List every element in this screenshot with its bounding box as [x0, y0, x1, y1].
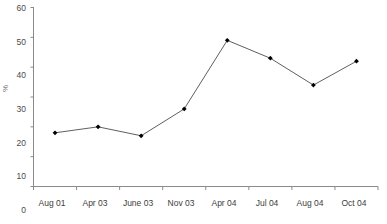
- data-point: [53, 130, 58, 135]
- data-point: [311, 83, 316, 88]
- series-line: [55, 40, 356, 135]
- data-point: [225, 38, 230, 43]
- series-markers: [53, 38, 359, 138]
- line-chart: % 60 50 40 30 20 10 0 Aug 01 Apr 03 June…: [0, 0, 387, 224]
- data-point: [354, 59, 359, 64]
- data-point: [182, 107, 187, 112]
- data-point: [96, 124, 101, 129]
- x-tick-marks: [34, 187, 379, 191]
- plot-area: [0, 0, 387, 224]
- data-point: [139, 133, 144, 138]
- data-point: [268, 56, 273, 61]
